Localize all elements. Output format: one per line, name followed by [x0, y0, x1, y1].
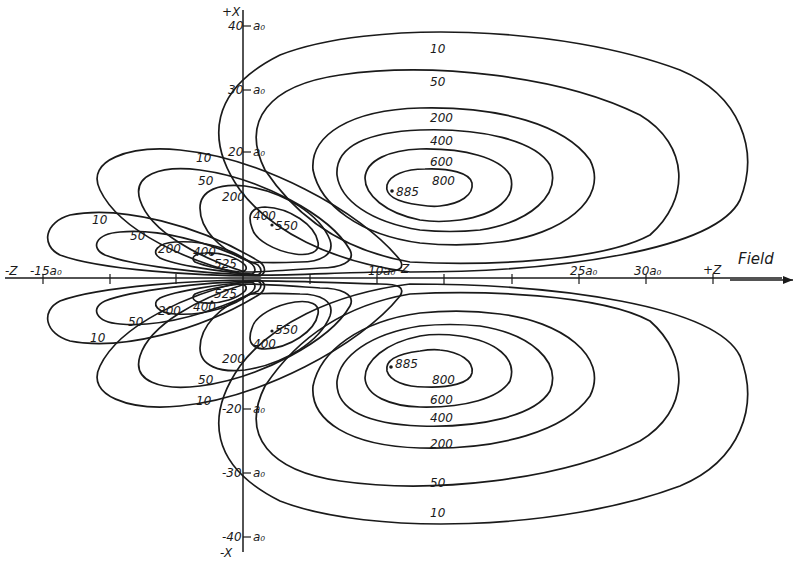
contour-label: 400 — [193, 245, 216, 259]
axes — [5, 10, 793, 552]
contour-label: 50 — [430, 75, 446, 89]
contour-label: 50 — [198, 373, 214, 387]
contour-label: 10 — [196, 394, 212, 408]
field-label: Field — [738, 250, 774, 268]
contour-label: 200 — [430, 111, 453, 125]
axis-labels: +X -X -Z +Z Field -15a₀ 10a₀ Z 25a₀ 30a₀… — [5, 5, 774, 560]
peak-value: 550 — [275, 219, 298, 233]
upper-left-lobe: 10 50 200 400 525 — [48, 212, 265, 276]
contour-label: 800 — [432, 373, 455, 387]
y-tick-unit: a₀ — [253, 83, 265, 97]
contour-label: 200 — [222, 190, 245, 204]
y-tick-label: -40 — [222, 530, 242, 544]
contour-label: 10 — [430, 42, 446, 56]
contour-label: 400 — [253, 337, 276, 351]
contour-label: 200 — [430, 437, 453, 451]
peak-value: 885 — [396, 185, 419, 199]
arrow-head-icon — [783, 276, 793, 284]
peak-value: 525 — [214, 257, 237, 271]
y-tick-label: -20 — [222, 402, 242, 416]
lower-right-lobe: 885 800 600 400 200 50 10 — [219, 284, 748, 524]
y-tick-unit: a₀ — [253, 466, 265, 480]
contour-diagram: +X -X -Z +Z Field -15a₀ 10a₀ Z 25a₀ 30a₀… — [0, 0, 803, 563]
contour-label: 50 — [430, 476, 446, 490]
y-axis-negative-label: -X — [220, 546, 233, 560]
x-axis-negative-label: -Z — [5, 264, 18, 278]
contour-label: 10 — [90, 331, 106, 345]
contour-label: 400 — [193, 300, 216, 314]
peak-value: 525 — [214, 287, 237, 301]
contour-label: 800 — [432, 174, 455, 188]
y-tick-label: 40 — [228, 19, 244, 33]
contour-label: 600 — [430, 393, 453, 407]
x-tick-label: -15a₀ — [30, 264, 62, 278]
contour-label: 200 — [158, 304, 181, 318]
y-axis-positive-label: +X — [222, 5, 241, 19]
contour-label: 600 — [430, 155, 453, 169]
contour-label: 400 — [430, 411, 453, 425]
contour-label: 200 — [222, 352, 245, 366]
y-tick-unit: a₀ — [253, 19, 265, 33]
peak-value: 885 — [395, 357, 418, 371]
contour-label: 50 — [130, 229, 146, 243]
x-tick-label: 25a₀ — [570, 264, 598, 278]
contour-label: 10 — [430, 506, 446, 520]
contour-label: 10 — [92, 213, 108, 227]
lower-left-lobe: 525 400 200 50 10 — [48, 280, 265, 345]
x-tick-label: 30a₀ — [634, 264, 662, 278]
contour-label: 400 — [253, 209, 276, 223]
contour-label: 400 — [430, 134, 453, 148]
x-axis-positive-label: +Z — [703, 263, 722, 277]
contour-label: 10 — [196, 151, 212, 165]
contour-label: 200 — [158, 242, 181, 256]
y-tick-unit: a₀ — [253, 530, 265, 544]
y-tick-unit: a₀ — [253, 402, 265, 416]
y-tick-label: 20 — [228, 145, 244, 159]
contour-label: 50 — [198, 174, 214, 188]
upper-right-lobe: 10 50 200 400 600 800 885 — [219, 32, 748, 272]
contour-label: 50 — [128, 315, 144, 329]
peak-value: 550 — [275, 323, 298, 337]
